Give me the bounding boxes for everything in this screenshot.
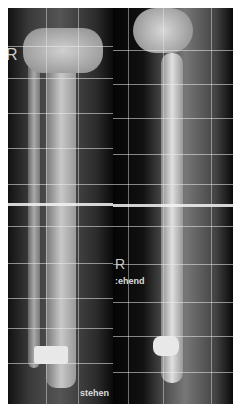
tibia-bone xyxy=(161,53,183,383)
fibula-bone xyxy=(28,48,40,368)
ankle-implant xyxy=(34,346,68,364)
position-label: :ehend xyxy=(115,276,145,286)
xray-ap-view: R stehen xyxy=(8,8,113,404)
side-marker: R xyxy=(8,46,18,64)
position-label: stehen xyxy=(80,388,109,398)
xray-lateral-view: R :ehend xyxy=(113,8,233,404)
side-marker: R xyxy=(115,256,125,272)
tibia-bone xyxy=(46,28,76,388)
ankle-implant xyxy=(153,336,179,356)
knee-joint xyxy=(23,28,103,73)
